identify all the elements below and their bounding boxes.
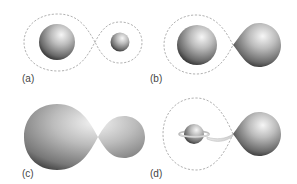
panel-label-c: (c) — [22, 168, 34, 179]
binary-star-diagram: (a) (b) (c) (d) — [0, 0, 297, 184]
panel-a: (a) — [22, 14, 142, 84]
panel-b: (b) — [150, 15, 281, 84]
panel-label-d: (d) — [150, 168, 162, 179]
panel-label-b: (b) — [150, 73, 162, 84]
detached-star — [177, 25, 217, 65]
panel-label-a: (a) — [22, 73, 34, 84]
primary-star — [39, 24, 75, 60]
panel-d: (d) — [150, 98, 281, 179]
secondary-star — [111, 33, 130, 52]
accreting-star — [184, 124, 204, 144]
donor-star — [233, 112, 281, 156]
contact-binary-envelope — [24, 104, 145, 170]
lobe-filling-star — [233, 23, 281, 67]
panel-c: (c) — [22, 104, 145, 179]
mass-transfer-stream — [207, 134, 233, 141]
